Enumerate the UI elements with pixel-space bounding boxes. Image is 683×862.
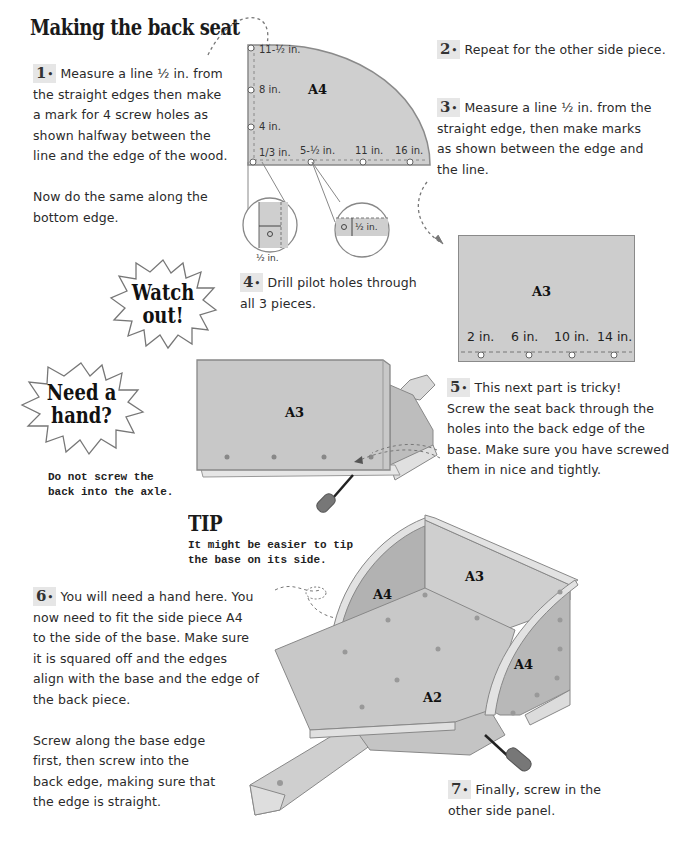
step-7: 7Finally, screw in the other side panel.: [448, 780, 668, 821]
detail-right-label: ½ in.: [355, 222, 378, 232]
a4-mark-h1: 5-½ in.: [300, 145, 335, 156]
a4-label: A4: [308, 82, 327, 97]
a4-mark-v2: 8 in.: [259, 84, 281, 95]
detail-left-label: ½ in.: [256, 253, 279, 263]
a4-mark-h3: 16 in.: [395, 145, 423, 156]
step-3: 3Measure a line ½ in. from the straight …: [437, 98, 677, 180]
a3-mark-3: 10 in.: [554, 329, 589, 344]
step-2: 2Repeat for the other side piece.: [437, 40, 677, 61]
watch-out-callout: Watch out!: [108, 258, 218, 348]
screwdriver-icon: [485, 735, 534, 773]
a3-mark-1: 2 in.: [467, 329, 494, 344]
step-1: 1Measure a line ½ in. from the straight …: [33, 64, 233, 228]
a3-assembly-label: A3: [285, 405, 304, 420]
right-a4-label: A4: [514, 657, 533, 672]
a3-cut-diagram: A3 2 in. 6 in. 10 in. 14 in.: [458, 235, 635, 362]
assembly-step5-illustration: A3: [195, 355, 445, 520]
a4-mark-v4: 1/3 in.: [259, 147, 291, 158]
a3-mark-2: 6 in.: [511, 329, 538, 344]
a4-mark-v1: 11-½ in.: [259, 44, 301, 55]
back-a3-label: A3: [465, 569, 484, 584]
detail-magnifier-lines: [240, 160, 420, 250]
base-a2-label: A2: [423, 690, 442, 705]
step-4: 4Drill pilot holes through all 3 pieces.: [240, 273, 440, 314]
left-a4-label: A4: [373, 587, 392, 602]
a4-mark-h2: 11 in.: [355, 145, 383, 156]
step-number: 1: [33, 64, 56, 83]
dotted-arrow-icon: [348, 448, 443, 468]
step-6: 6You will need a hand here. You now need…: [33, 587, 273, 813]
a4-cut-diagram: 11-½ in. 8 in. 4 in. 1/3 in. 5-½ in. 11 …: [245, 42, 435, 172]
a3-mark-4: 14 in.: [597, 329, 632, 344]
step-5: 5This next part is tricky! Screw the sea…: [447, 378, 683, 481]
a4-mark-v3: 4 in.: [259, 121, 281, 132]
need-hand-note: Do not screw the back into the axle.: [48, 470, 173, 500]
dotted-arrow-icon: [405, 180, 465, 250]
need-a-hand-callout: Need a hand?: [16, 360, 146, 455]
a3-label: A3: [532, 284, 551, 299]
